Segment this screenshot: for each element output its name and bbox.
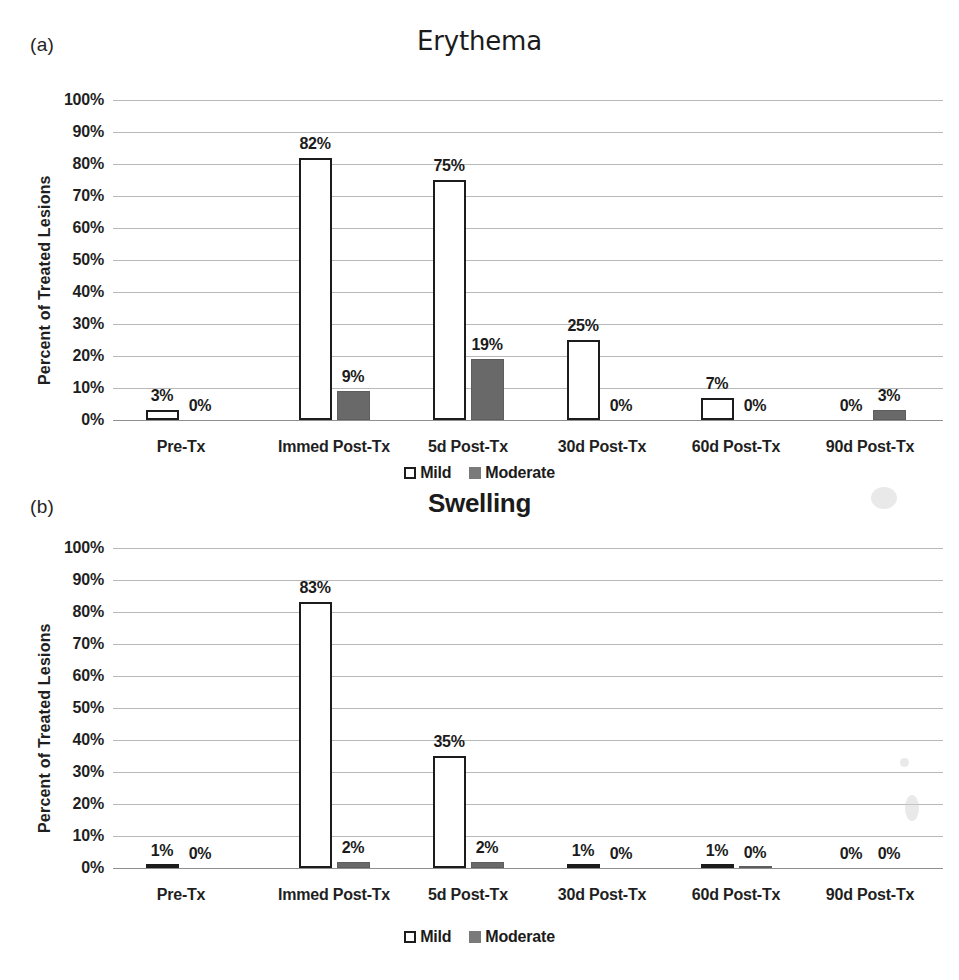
bar-value-label: 0% (596, 397, 647, 415)
bar-value-label: 7% (692, 375, 743, 393)
bar-value-label: 0% (596, 845, 647, 863)
figure-container: (a) Erythema Percent of Treated Lesions … (0, 0, 959, 980)
gridline (113, 292, 943, 293)
x-axis-category-label: Pre-Tx (101, 886, 261, 904)
mild-swatch-icon (404, 467, 416, 479)
gridline (113, 644, 943, 645)
y-axis-tick-label: 40% (73, 731, 104, 749)
legend-label: Moderate (485, 928, 555, 946)
bar-moderate-90d-post-tx (873, 410, 906, 420)
bar-value-label: 0% (730, 844, 781, 862)
gridline (113, 356, 943, 357)
bar-value-label: 75% (424, 157, 475, 175)
legend-item-moderate[interactable]: Moderate (469, 464, 555, 482)
y-axis-tick-label: 30% (73, 315, 104, 333)
y-axis-tick-label: 20% (73, 795, 104, 813)
gridline (113, 388, 943, 389)
bar-value-label: 35% (424, 733, 475, 751)
y-axis-tick-label: 40% (73, 283, 104, 301)
gridline (113, 100, 943, 101)
chart-title-swelling: Swelling (0, 488, 959, 519)
x-axis-category-label: 90d Post-Tx (790, 886, 950, 904)
y-axis-tick-label: 50% (73, 251, 104, 269)
y-axis-title-b: Percent of Treated Lesions (36, 623, 54, 833)
bar-mild-immed-post-tx (299, 602, 332, 868)
gridline (113, 772, 943, 773)
y-axis-tick-label: 90% (73, 571, 104, 589)
gridline (113, 708, 943, 709)
legend-item-mild[interactable]: Mild (404, 464, 451, 482)
bar-mild-pre-tx (146, 864, 179, 868)
bar-value-label: 2% (462, 839, 513, 857)
legend-label: Mild (420, 928, 451, 946)
y-axis-tick-label: 50% (73, 699, 104, 717)
gridline (113, 260, 943, 261)
bar-mild-60d-post-tx (701, 864, 734, 868)
legend-label: Moderate (485, 464, 555, 482)
bar-moderate-immed-post-tx (337, 862, 370, 868)
gridline (113, 612, 943, 613)
axis-baseline (113, 420, 943, 421)
panel-erythema: (a) Erythema Percent of Treated Lesions … (0, 0, 959, 492)
y-axis-tick-label: 70% (73, 187, 104, 205)
y-axis-tick-label: 30% (73, 763, 104, 781)
gridline (113, 324, 943, 325)
axis-baseline (113, 868, 943, 869)
y-axis-tick-label: 10% (73, 827, 104, 845)
gridline (113, 196, 943, 197)
legend-erythema: MildModerate (0, 464, 959, 482)
bar-value-label: 83% (290, 579, 341, 597)
gridline (113, 132, 943, 133)
bar-value-label: 2% (328, 839, 379, 857)
y-axis-tick-label: 90% (73, 123, 104, 141)
y-axis-title-a: Percent of Treated Lesions (36, 175, 54, 385)
y-axis-tick-label: 100% (64, 539, 104, 557)
gridline (113, 164, 943, 165)
gridline (113, 548, 943, 549)
moderate-swatch-icon (469, 931, 481, 943)
y-axis-tick-label: 60% (73, 219, 104, 237)
chart-title-erythema: Erythema (0, 26, 959, 56)
x-axis-category-label: 90d Post-Tx (790, 438, 950, 456)
bar-value-label: 0% (175, 845, 226, 863)
bar-moderate-immed-post-tx (337, 391, 370, 420)
gridline (113, 804, 943, 805)
bar-value-label: 0% (730, 397, 781, 415)
bar-mild-30d-post-tx (567, 864, 600, 868)
gridline (113, 740, 943, 741)
bar-mild-5d-post-tx (433, 180, 466, 420)
x-axis-category-label: Pre-Tx (101, 438, 261, 456)
y-axis-tick-label: 0% (81, 859, 104, 877)
y-axis-tick-label: 0% (81, 411, 104, 429)
y-axis-tick-label: 80% (73, 155, 104, 173)
legend-item-mild[interactable]: Mild (404, 928, 451, 946)
gridline (113, 580, 943, 581)
mild-swatch-icon (404, 931, 416, 943)
plot-area-swelling: 0%10%20%30%40%50%60%70%80%90%100%1%0%83%… (113, 548, 943, 868)
bar-moderate-5d-post-tx (471, 359, 504, 420)
bar-moderate-5d-post-tx (471, 862, 504, 868)
bar-value-label: 19% (462, 336, 513, 354)
legend-item-moderate[interactable]: Moderate (469, 928, 555, 946)
moderate-swatch-icon (469, 467, 481, 479)
bar-moderate-60d-post-tx (739, 866, 772, 868)
bar-value-label: 0% (864, 845, 915, 863)
gridline (113, 228, 943, 229)
bar-value-label: 0% (175, 397, 226, 415)
y-axis-tick-label: 10% (73, 379, 104, 397)
y-axis-tick-label: 60% (73, 667, 104, 685)
bar-value-label: 25% (558, 317, 609, 335)
bar-value-label: 9% (328, 368, 379, 386)
legend-label: Mild (420, 464, 451, 482)
bar-value-label: 82% (290, 135, 341, 153)
legend-swelling: MildModerate (0, 928, 959, 946)
y-axis-tick-label: 80% (73, 603, 104, 621)
panel-swelling: (b) Swelling Percent of Treated Lesions … (0, 488, 959, 980)
gridline (113, 676, 943, 677)
y-axis-tick-label: 100% (64, 91, 104, 109)
bar-value-label: 3% (864, 387, 915, 405)
y-axis-tick-label: 70% (73, 635, 104, 653)
gridline (113, 836, 943, 837)
y-axis-tick-label: 20% (73, 347, 104, 365)
plot-area-erythema: 0%10%20%30%40%50%60%70%80%90%100%3%0%82%… (113, 100, 943, 420)
